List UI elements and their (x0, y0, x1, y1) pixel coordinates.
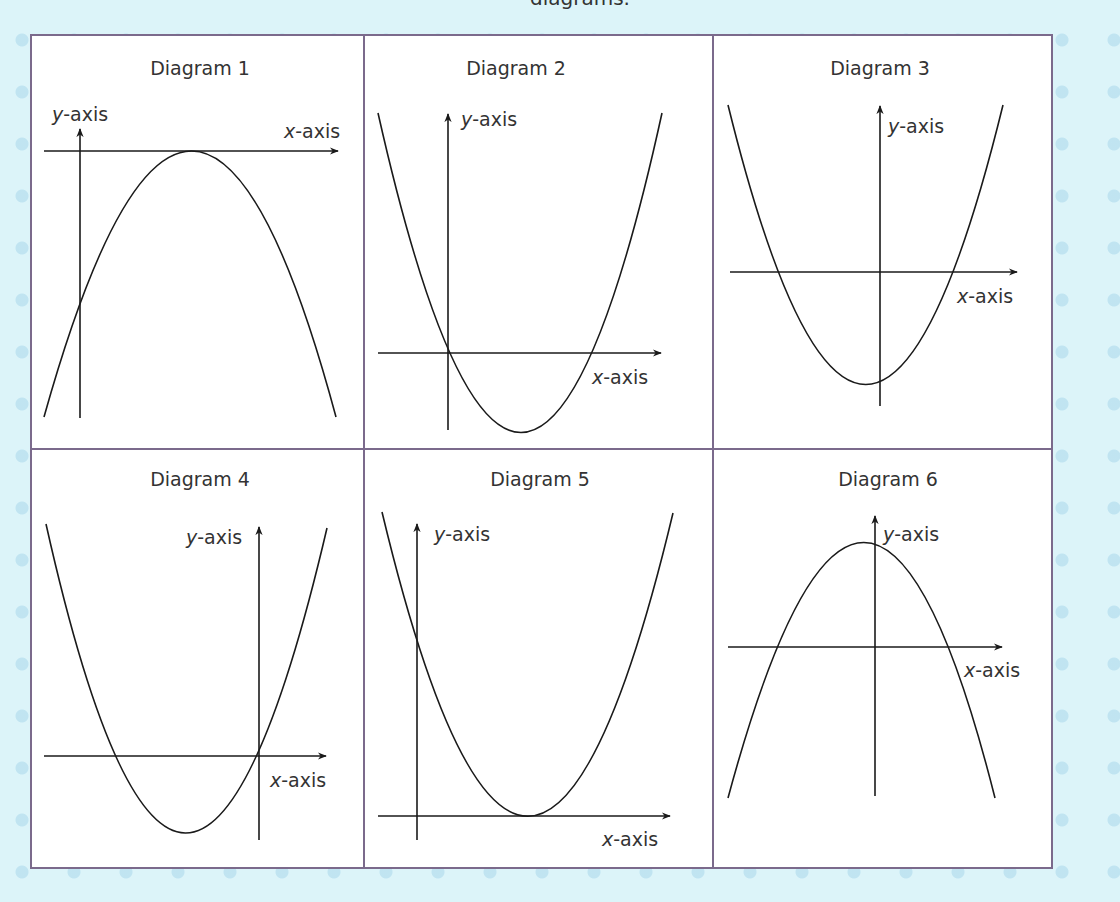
y-axis-label: y-axis (887, 115, 944, 137)
parabola-curve (728, 543, 995, 799)
x-axis-label: x-axis (591, 366, 648, 388)
x-axis-label: x-axis (269, 769, 326, 791)
diagram-4-title: Diagram 4 (150, 468, 250, 490)
diagram-6: Diagram 6 y-axis x-axis (728, 468, 1020, 798)
x-axis-label: x-axis (956, 285, 1013, 307)
diagram-2-title: Diagram 2 (466, 57, 566, 79)
diagram-4: Diagram 4 y-axis x-axis (44, 468, 327, 840)
diagram-3-title: Diagram 3 (830, 57, 930, 79)
x-axis-label: x-axis (283, 120, 340, 142)
y-axis-label: y-axis (882, 523, 939, 545)
y-axis-label: y-axis (51, 103, 108, 125)
diagram-6-title: Diagram 6 (838, 468, 938, 490)
diagram-1-title: Diagram 1 (150, 57, 250, 79)
diagram-5-title: Diagram 5 (490, 468, 590, 490)
diagram-5: Diagram 5 y-axis x-axis (378, 468, 673, 850)
diagram-1: Diagram 1 y-axis x-axis (44, 57, 340, 418)
y-axis-label: y-axis (433, 523, 490, 545)
x-axis-label: x-axis (963, 659, 1020, 681)
y-axis-label: y-axis (185, 526, 242, 548)
parabola-curve (382, 512, 673, 816)
parabola-curve (728, 105, 1003, 385)
diagram-3: Diagram 3 y-axis x-axis (728, 57, 1017, 406)
parabola-curve (44, 151, 336, 417)
x-axis-label: x-axis (601, 828, 658, 850)
diagram-2: Diagram 2 y-axis x-axis (378, 57, 662, 433)
y-axis-label: y-axis (460, 108, 517, 130)
